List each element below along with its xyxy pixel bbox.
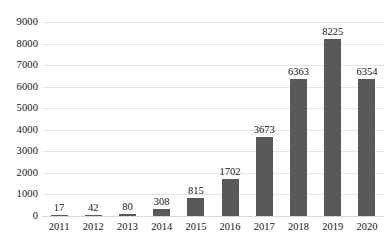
x-axis-tick-label: 2017 (247, 220, 281, 234)
bar (85, 215, 102, 216)
bar-value-label: 6354 (350, 66, 384, 77)
x-axis-tick-label: 2020 (350, 220, 384, 234)
bar-chart: 9000800070006000500040003000200010000 17… (0, 0, 390, 237)
y-axis-tick-label: 0 (0, 210, 38, 221)
bar-group: 6354 (350, 0, 384, 216)
y-axis: 9000800070006000500040003000200010000 (0, 0, 38, 237)
y-axis-tick-label: 5000 (0, 102, 38, 113)
bar-group: 6363 (281, 0, 315, 216)
bar-value-label: 308 (145, 196, 179, 207)
x-axis-tick-label: 2018 (281, 220, 315, 234)
plot-area: 17428030881517023673636382256354 (42, 0, 384, 237)
bar-group: 3673 (247, 0, 281, 216)
bars-layer: 17428030881517023673636382256354 (42, 0, 384, 237)
x-axis-tick-label: 2015 (179, 220, 213, 234)
bar-group: 80 (110, 0, 144, 216)
y-axis-tick-label: 8000 (0, 38, 38, 49)
x-axis-tick-label: 2019 (316, 220, 350, 234)
x-axis-tick-label: 2011 (42, 220, 76, 234)
x-axis-tick-label: 2012 (76, 220, 110, 234)
bar (290, 79, 307, 216)
bar-group: 1702 (213, 0, 247, 216)
x-axis-tick-label: 2014 (145, 220, 179, 234)
bar (119, 214, 136, 216)
bar (222, 179, 239, 216)
bar-value-label: 42 (76, 202, 110, 213)
x-axis-tick-label: 2013 (110, 220, 144, 234)
bar (256, 137, 273, 216)
bar-value-label: 8225 (316, 26, 350, 37)
y-axis-tick-label: 6000 (0, 81, 38, 92)
bar (153, 209, 170, 216)
bar-group: 17 (42, 0, 76, 216)
bar-value-label: 3673 (247, 124, 281, 135)
bar (51, 215, 68, 216)
y-axis-tick-label: 4000 (0, 124, 38, 135)
bar (324, 39, 341, 216)
y-axis-tick-label: 9000 (0, 16, 38, 27)
x-axis-tick-label: 2016 (213, 220, 247, 234)
bar-group: 815 (179, 0, 213, 216)
bar-group: 42 (76, 0, 110, 216)
bar-group: 8225 (316, 0, 350, 216)
y-axis-tick-label: 1000 (0, 188, 38, 199)
bar-value-label: 815 (179, 185, 213, 196)
bar-value-label: 17 (42, 202, 76, 213)
bar-value-label: 80 (110, 201, 144, 212)
y-axis-tick-label: 3000 (0, 145, 38, 156)
y-axis-tick-label: 2000 (0, 167, 38, 178)
x-axis: 2011201220132014201520162017201820192020 (42, 220, 384, 237)
bar-group: 308 (145, 0, 179, 216)
bar (358, 79, 375, 216)
bar (187, 198, 204, 216)
bar-value-label: 6363 (281, 66, 315, 77)
y-axis-tick-label: 7000 (0, 59, 38, 70)
bar-value-label: 1702 (213, 166, 247, 177)
